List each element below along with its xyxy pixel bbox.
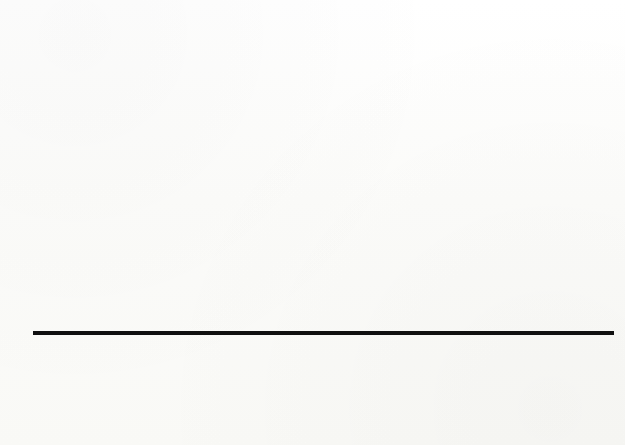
plot-area [57, 45, 614, 331]
y-axis [0, 45, 57, 337]
chart-page [0, 0, 625, 445]
x-axis-line [33, 331, 614, 335]
